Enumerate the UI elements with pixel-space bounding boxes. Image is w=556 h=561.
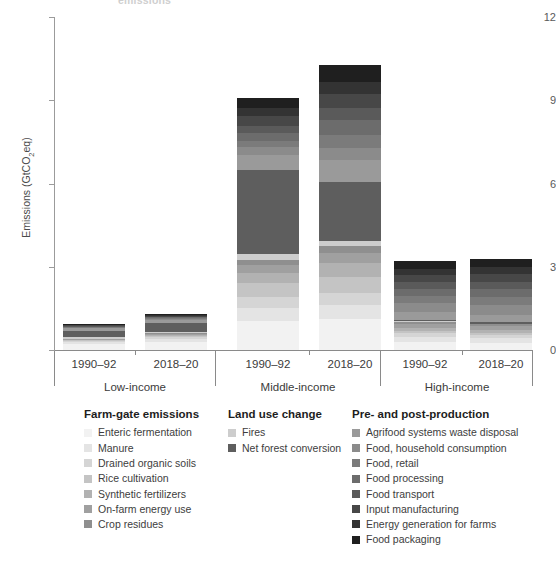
stacked-bar[interactable] [394, 261, 456, 350]
bar-segment[interactable] [394, 261, 456, 269]
bar-segment[interactable] [394, 296, 456, 303]
legend-swatch-icon [352, 475, 360, 483]
bar-segment[interactable] [319, 82, 381, 95]
legend-item[interactable]: Drained organic soils [84, 456, 234, 471]
bar-segment[interactable] [319, 293, 381, 305]
legend-item[interactable]: Net forest conversion [228, 440, 356, 455]
legend-group-title: Pre- and post-production [352, 408, 552, 420]
bar-segment[interactable] [319, 277, 381, 293]
legend-item[interactable]: Food, household consumption [352, 440, 552, 455]
bar-segment[interactable] [237, 297, 299, 308]
legend-item[interactable]: Food packaging [352, 532, 552, 547]
bar-segment[interactable] [237, 308, 299, 320]
legend-item[interactable]: Food, retail [352, 456, 552, 471]
legend-item[interactable]: Food processing [352, 471, 552, 486]
bar-segment[interactable] [237, 321, 299, 350]
bar-segment[interactable] [470, 274, 532, 282]
legend-swatch-icon [352, 520, 360, 528]
bar-segment[interactable] [237, 273, 299, 283]
y-axis-tick-mark [49, 267, 55, 268]
bar-segment[interactable] [394, 275, 456, 282]
bar-segment[interactable] [237, 147, 299, 155]
legend-column-pre-post: Pre- and post-productionAgrifood systems… [352, 408, 552, 547]
bar-segment[interactable] [319, 65, 381, 82]
legend-swatch-icon [352, 536, 360, 544]
stacked-bar[interactable] [319, 65, 381, 350]
legend: Farm-gate emissionsEnteric fermentationM… [0, 408, 556, 561]
bar-segment[interactable] [394, 312, 456, 319]
legend-swatch-icon [352, 505, 360, 513]
legend-item-label: Drained organic soils [98, 458, 196, 469]
bar-segment[interactable] [319, 319, 381, 350]
bar-segment[interactable] [237, 126, 299, 133]
bar-segment[interactable] [237, 116, 299, 125]
legend-item[interactable]: Enteric fermentation [84, 425, 234, 440]
bar-segment[interactable] [394, 303, 456, 312]
legend-swatch-icon [84, 444, 92, 452]
x-axis-period-label: 1990–92 [223, 358, 313, 370]
bar-segment[interactable] [470, 315, 532, 323]
stacked-bar[interactable] [63, 324, 125, 350]
bar-segment[interactable] [237, 283, 299, 297]
bar-segment[interactable] [237, 265, 299, 273]
bar-segment[interactable] [394, 342, 456, 350]
bar-segment[interactable] [237, 133, 299, 141]
legend-item-label: Enteric fermentation [98, 427, 192, 438]
bar-segment[interactable] [145, 323, 207, 331]
bar-segment[interactable] [63, 331, 125, 338]
bar-segment[interactable] [319, 94, 381, 108]
legend-item[interactable]: Crop residues [84, 517, 234, 532]
bar-segment[interactable] [319, 160, 381, 182]
legend-swatch-icon [84, 459, 92, 467]
legend-item[interactable]: Food transport [352, 486, 552, 501]
bar-segment[interactable] [237, 108, 299, 116]
legend-swatch-icon [84, 520, 92, 528]
x-axis-period-label: 1990–92 [49, 358, 139, 370]
legend-item-label: Net forest conversion [242, 443, 341, 454]
bar-segment[interactable] [394, 289, 456, 296]
legend-item[interactable]: Agrifood systems waste disposal [352, 425, 552, 440]
legend-item-label: Crop residues [98, 519, 163, 530]
plot-area: Emissions (GtCO2eq) 1990–922018–201990–9… [0, 0, 556, 400]
bar-segment[interactable] [319, 263, 381, 277]
bar-segment[interactable] [319, 246, 381, 253]
bar-segment[interactable] [145, 342, 207, 350]
bars-layer [0, 0, 556, 350]
legend-group-title: Land use change [228, 408, 356, 420]
bar-segment[interactable] [237, 98, 299, 108]
legend-item[interactable]: Rice cultivation [84, 471, 234, 486]
legend-item[interactable]: On-farm energy use [84, 501, 234, 516]
stacked-bar[interactable] [145, 314, 207, 350]
legend-item[interactable]: Fires [228, 425, 356, 440]
bar-segment[interactable] [319, 148, 381, 160]
y-axis-tick-label: 3 [512, 261, 556, 273]
bar-segment[interactable] [237, 170, 299, 253]
legend-item[interactable]: Synthetic fertilizers [84, 486, 234, 501]
legend-item[interactable]: Energy generation for farms [352, 517, 552, 532]
y-axis-tick-mark [49, 350, 55, 351]
bar-segment[interactable] [237, 155, 299, 171]
bar-segment[interactable] [470, 282, 532, 289]
bar-segment[interactable] [319, 120, 381, 136]
bar-segment[interactable] [319, 253, 381, 263]
bar-segment[interactable] [319, 108, 381, 120]
legend-item-label: Rice cultivation [98, 473, 169, 484]
legend-item-label: Fires [242, 427, 265, 438]
bar-segment[interactable] [470, 305, 532, 315]
y-axis-tick-label: 0 [512, 344, 556, 356]
x-axis-period-label: 2018–20 [131, 358, 221, 370]
bar-segment[interactable] [394, 282, 456, 289]
bar-segment[interactable] [319, 305, 381, 319]
bar-segment[interactable] [63, 344, 125, 350]
legend-swatch-icon [228, 429, 236, 437]
x-axis-group-label: High-income [367, 381, 547, 393]
legend-item[interactable]: Input manufacturing [352, 501, 552, 516]
bar-segment[interactable] [319, 182, 381, 240]
legend-item-label: Synthetic fertilizers [98, 489, 186, 500]
legend-item-label: Food transport [366, 489, 434, 500]
bar-segment[interactable] [470, 289, 532, 297]
bar-segment[interactable] [470, 297, 532, 305]
bar-segment[interactable] [319, 135, 381, 148]
stacked-bar[interactable] [237, 98, 299, 350]
legend-item[interactable]: Manure [84, 440, 234, 455]
